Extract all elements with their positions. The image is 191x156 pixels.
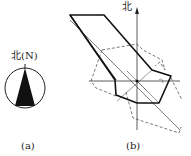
solid-polygon: [70, 15, 171, 103]
diagram-canvas: [0, 0, 191, 156]
diagonal-line: [70, 20, 180, 130]
diagram-b: [70, 7, 182, 133]
caption-a: (a): [21, 141, 35, 151]
dashed-polygon-bottom: [126, 92, 181, 133]
north-label-a: 北(N): [11, 51, 38, 61]
north-label-b: 北: [122, 2, 132, 12]
north-arrow-icon: [15, 68, 35, 106]
caption-b: (b): [126, 141, 140, 151]
spoke-line: [137, 81, 159, 103]
axis-arrow-icon: [135, 7, 139, 14]
compass-a: [5, 64, 45, 108]
dashed-polygon-left: [91, 50, 116, 96]
